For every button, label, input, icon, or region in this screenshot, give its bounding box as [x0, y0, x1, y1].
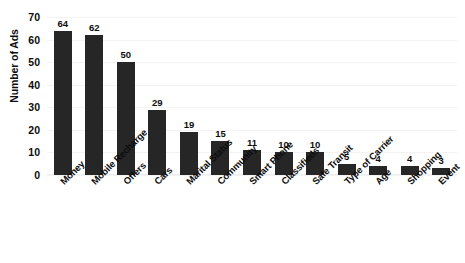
y-axis-tick-label: 30 [0, 101, 40, 113]
y-axis-tick-label: 40 [0, 79, 40, 91]
bar-value-label: 19 [184, 119, 195, 130]
bar-value-label: 62 [89, 22, 100, 33]
y-axis-tick-label: 50 [0, 56, 40, 68]
bar[interactable] [85, 35, 103, 175]
y-axis-tick-label: 10 [0, 146, 40, 158]
y-axis-tick-label: 70 [0, 11, 40, 23]
y-axis-tick-label: 60 [0, 34, 40, 46]
bar-value-label: 50 [121, 49, 132, 60]
bar-chart: Number of Ads 010203040506070 6462502919… [0, 0, 465, 263]
bar-value-label: 64 [57, 18, 68, 29]
bar-item[interactable]: 64 [54, 17, 72, 175]
bar-item[interactable]: 29 [148, 17, 166, 175]
y-axis-tick-label: 0 [0, 169, 40, 181]
bar[interactable] [148, 110, 166, 175]
bar-value-label: 29 [152, 97, 163, 108]
y-axis-tick-label: 20 [0, 124, 40, 136]
bar-value-label: 4 [407, 153, 412, 164]
bar-item[interactable]: 19 [180, 17, 198, 175]
bar-item[interactable]: 4 [401, 17, 419, 175]
bar-item[interactable]: 62 [85, 17, 103, 175]
bar[interactable] [54, 31, 72, 175]
